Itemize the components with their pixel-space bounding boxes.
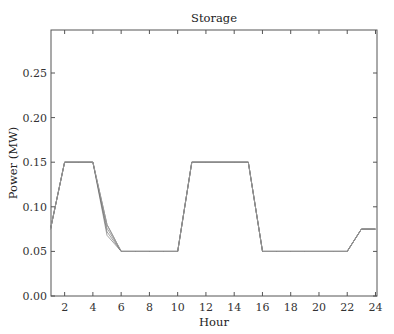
y-tick-label: 0.10 [23, 201, 48, 214]
series-line [51, 162, 376, 251]
y-axis-label: Power (MW) [6, 127, 20, 200]
x-tick-label: 14 [227, 301, 241, 314]
series-line [51, 162, 376, 251]
chart-title: Storage [191, 11, 237, 25]
plot-frame [51, 30, 377, 296]
series-line-overlay [51, 162, 376, 251]
y-tick-label: 0.15 [23, 156, 48, 169]
y-tick-label: 0.20 [23, 112, 48, 125]
y-axis-ticks: 0.000.050.100.150.200.25 [23, 67, 378, 303]
y-tick-label: 0.25 [23, 67, 48, 80]
x-tick-label: 18 [284, 301, 298, 314]
x-tick-label: 12 [199, 301, 213, 314]
series-line [51, 162, 376, 251]
x-tick-label: 22 [340, 301, 354, 314]
x-tick-label: 24 [368, 301, 382, 314]
storage-chart: 0.000.050.100.150.200.25 246810121416182… [0, 0, 394, 334]
y-tick-label: 0.05 [23, 245, 48, 258]
x-tick-label: 6 [118, 301, 125, 314]
x-axis-ticks: 24681012141618202224 [61, 30, 382, 314]
y-tick-label: 0.00 [23, 290, 48, 303]
data-lines [51, 162, 376, 251]
x-tick-label: 8 [146, 301, 153, 314]
x-axis-label: Hour [199, 315, 229, 329]
x-tick-label: 4 [89, 301, 96, 314]
x-tick-label: 16 [255, 301, 269, 314]
series-line [51, 162, 376, 251]
x-tick-label: 2 [61, 301, 68, 314]
x-tick-label: 10 [171, 301, 185, 314]
x-tick-label: 20 [312, 301, 326, 314]
